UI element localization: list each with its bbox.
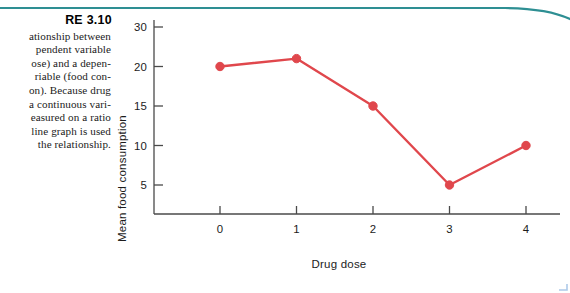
data-point [522, 141, 530, 149]
y-axis-tick-label: 20 [134, 61, 147, 73]
x-axis-tick-label: 4 [523, 223, 530, 235]
caption-line: pendent variable [0, 43, 111, 57]
y-axis-title: Mean food consumption [116, 82, 128, 242]
caption-line: a continuous vari- [0, 98, 111, 112]
line-chart: Mean food consumption 30201510501234 Dru… [108, 6, 570, 291]
x-axis-tick-label: 1 [293, 223, 300, 235]
caption-line: on). Because drug [0, 84, 111, 98]
caption-line: easured on a ratio [0, 111, 111, 125]
data-point [292, 54, 300, 62]
x-axis-tick-label: 2 [370, 223, 377, 235]
caption-line: the relationship. [0, 138, 111, 152]
caption-line: ose) and a depen- [0, 57, 111, 71]
data-point [216, 62, 224, 70]
y-axis-tick-label: 15 [134, 100, 147, 112]
x-axis-tick-label: 3 [446, 223, 453, 235]
caption-line: line graph is used [0, 125, 111, 139]
y-axis-tick-label: 10 [134, 140, 147, 152]
figure-caption-body: ationship between pendent variable ose) … [0, 30, 111, 152]
data-point [445, 181, 453, 189]
figure-number: RE 3.10 [0, 14, 112, 28]
x-axis-tick-label: 0 [217, 223, 224, 235]
caption-line: riable (food con- [0, 70, 111, 84]
data-line [220, 59, 526, 185]
y-axis-tick-label: 30 [134, 21, 147, 33]
caption-line: ationship between [0, 30, 111, 44]
data-point [369, 102, 377, 110]
figure-caption: RE 3.10 ationship between pendent variab… [0, 14, 112, 152]
x-axis-title: Drug dose [108, 258, 570, 270]
chart-plot-area: 30201510501234 [108, 6, 570, 256]
y-axis-tick-label: 5 [140, 179, 147, 191]
